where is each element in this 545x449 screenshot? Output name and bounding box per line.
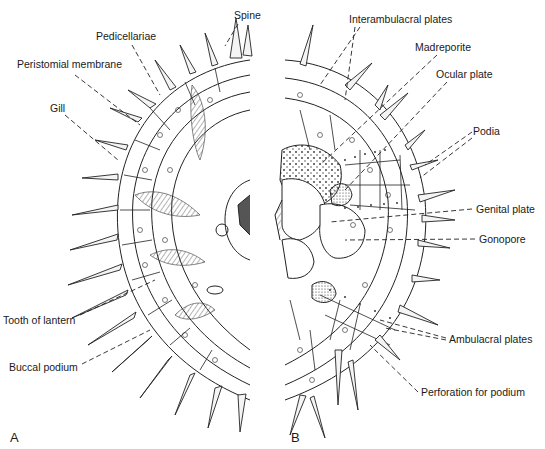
leader-lines: [65, 24, 475, 392]
label-ambulacral-plates: Ambulacral plates: [449, 334, 532, 345]
label-genital-plate: Genital plate: [476, 204, 535, 215]
panel-letter-b: B: [291, 430, 300, 445]
label-perforation-for-podium: Perforation for podium: [421, 387, 525, 398]
label-buccal-podium: Buccal podium: [9, 362, 78, 373]
label-madreporite: Madreporite: [415, 42, 471, 53]
label-gill: Gill: [50, 103, 65, 114]
label-tooth-of-lantern: Tooth of lantern: [3, 315, 75, 326]
panel-letter-a: A: [10, 430, 19, 445]
label-spine: Spine: [234, 10, 261, 21]
label-ocular-plate: Ocular plate: [436, 69, 493, 80]
label-gonopore: Gonopore: [479, 234, 526, 245]
label-pedicellariae: Pedicellariae: [96, 31, 156, 42]
label-podia: Podia: [473, 126, 500, 137]
label-peristomial-membrane: Peristomial membrane: [17, 59, 122, 70]
sea-urchin-figure: Spine Pedicellariae Peristomial membrane…: [0, 0, 545, 449]
panel-b-drawing: [275, 60, 426, 400]
label-interambulacral-plates: Interambulacral plates: [349, 14, 452, 25]
